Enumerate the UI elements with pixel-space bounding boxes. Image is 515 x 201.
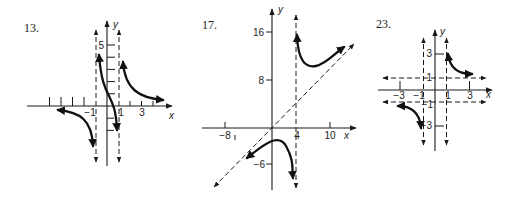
x-tick-label: 3: [139, 107, 145, 118]
y-axis-label: y: [277, 4, 284, 15]
oblique-asymptote: [214, 44, 354, 187]
x-tick-label: 1: [445, 90, 451, 101]
x-axis-label: x: [485, 89, 492, 100]
y-tick-label: 16: [253, 27, 265, 38]
figure-canvas: 13. y 5 −1 1 3 x: [0, 0, 515, 201]
x-tick-label: −1: [84, 107, 96, 118]
graph-17: 17. y 16 8 −6 −8 4 10 x: [202, 4, 356, 190]
graph-23: 23. y 3 1 −1 −3 −3 −1 1 3 x: [376, 17, 492, 151]
graph-number: 17.: [202, 18, 217, 32]
curve-middle-branch: [99, 55, 117, 130]
y-tick-label: 8: [258, 75, 264, 86]
x-tick-label: −3: [393, 90, 405, 101]
x-tick-label: 10: [324, 130, 336, 141]
y-tick-label: 5: [98, 40, 104, 51]
x-tick-label: 4: [294, 130, 300, 141]
y-tick-label: −3: [421, 120, 433, 131]
curve-right-branch: [123, 62, 163, 100]
curve-lower-branch: [398, 106, 421, 128]
x-tick-label: 3: [467, 90, 473, 101]
x-tick-label: 1: [118, 107, 124, 118]
y-tick-label: 3: [426, 48, 432, 59]
graph-number: 23.: [376, 17, 391, 31]
x-axis-ticks: [225, 122, 330, 128]
y-axis-label: y: [112, 19, 119, 30]
x-axis-label: x: [343, 130, 350, 141]
x-tick-label: −1: [413, 90, 425, 101]
curve-upper-branch: [297, 35, 344, 66]
x-tick-label: −8: [219, 130, 231, 141]
x-axis-ticks: [50, 97, 154, 106]
graph-number: 13.: [24, 21, 39, 35]
y-axis-label: y: [439, 26, 446, 37]
x-axis-label: x: [168, 110, 175, 121]
y-axis-ticks: [107, 45, 115, 130]
figure-page: 13. y 5 −1 1 3 x: [0, 0, 515, 201]
graph-13: 13. y 5 −1 1 3 x: [24, 19, 175, 166]
y-tick-label: −6: [254, 159, 266, 170]
curve-upper-branch: [448, 54, 472, 74]
y-tick-label: 1: [426, 72, 432, 83]
